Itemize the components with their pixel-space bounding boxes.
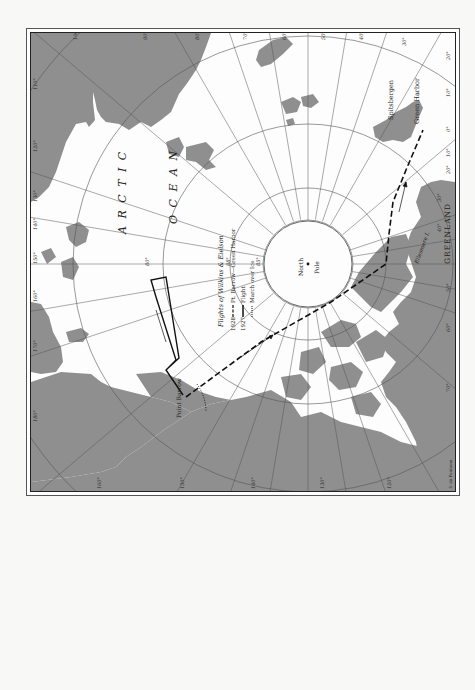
- spitsbergen-label: Spitsbergen: [387, 80, 395, 120]
- legend-march-text: March over Ice: [249, 261, 255, 303]
- credit-label: © de Fontaine: [448, 459, 453, 489]
- tick-label: 60°: [281, 33, 287, 40]
- legend-1927-text: Flight: [240, 286, 247, 303]
- tick-label: 150°: [179, 476, 185, 489]
- tick-label: 20°: [445, 51, 451, 61]
- tick-label: 160°: [32, 289, 38, 302]
- point-barrow-label: Point Barrow: [175, 377, 182, 418]
- tick-label: 70°: [242, 33, 248, 40]
- polar-map: A R C T I C O C E A N North Pole Spitsbe…: [31, 33, 455, 491]
- tick-label: 40°: [358, 33, 364, 41]
- pole-label-pole: Pole: [313, 261, 320, 274]
- legend-1928-text: Pt. Barrow—Green Harbor: [230, 228, 236, 303]
- north-pole-marker: [307, 263, 310, 266]
- tick-label: 180°: [32, 409, 38, 422]
- tick-label: 120°: [32, 139, 38, 152]
- lat-label-85: 85°: [255, 257, 261, 266]
- tick-label: 60°: [445, 323, 451, 332]
- greenland-label: GREENLAND: [443, 203, 452, 264]
- lat-label-80: 80°: [144, 257, 150, 266]
- tick-label: 130°: [319, 476, 325, 489]
- tick-label: 0°: [445, 126, 451, 132]
- ocean-label: O C E A N: [167, 149, 180, 224]
- tick-label: 100°: [72, 33, 78, 40]
- tick-label: 30°: [401, 37, 407, 46]
- tick-label: 150°: [32, 251, 38, 264]
- tick-label: 30°: [436, 193, 442, 202]
- tick-label: 110°: [32, 77, 38, 90]
- tick-label: 40°: [436, 223, 442, 233]
- legend-1927-year: 1927: [240, 317, 246, 331]
- tick-label: 90°: [142, 33, 148, 40]
- tick-label: 160°: [96, 476, 102, 489]
- tick-label: 10°: [445, 88, 451, 97]
- page: A R C T I C O C E A N North Pole Spitsbe…: [0, 0, 475, 690]
- legend-1928-year: 1928: [230, 317, 236, 331]
- tick-label: 50°: [320, 33, 326, 40]
- tick-label: 140°: [250, 476, 256, 489]
- tick-label: 170°: [32, 339, 38, 352]
- tick-label: 130°: [32, 189, 38, 202]
- tick-label: 140°: [32, 217, 38, 230]
- map-frame: A R C T I C O C E A N North Pole Spitsbe…: [26, 28, 460, 496]
- arctic-label: A R C T I C: [116, 150, 129, 235]
- tick-label: 120°: [386, 476, 392, 489]
- map-canvas: A R C T I C O C E A N North Pole Spitsbe…: [30, 32, 456, 492]
- pole-label-north: North: [297, 258, 304, 276]
- green-harbor-label: Green Harbor: [413, 77, 421, 124]
- tick-label: 70°: [445, 383, 451, 392]
- legend-title: Flights of Wilkins & Eielson: [217, 235, 225, 328]
- tick-label: 80°: [194, 33, 200, 40]
- tick-label: 20°: [445, 165, 451, 175]
- tick-label: 10°: [445, 148, 451, 157]
- tick-label: 50°: [445, 283, 451, 292]
